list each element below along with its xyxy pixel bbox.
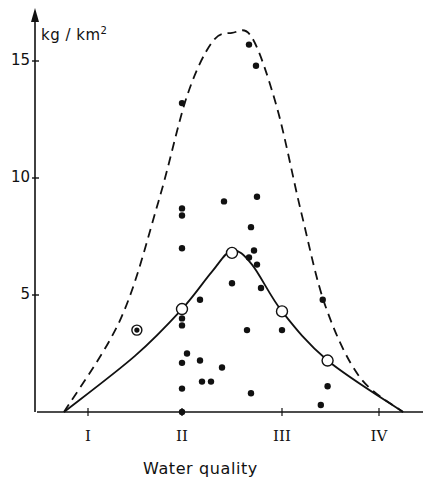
x-axis-label: Water quality <box>143 459 258 478</box>
data-point <box>251 247 257 253</box>
data-point <box>279 327 285 333</box>
data-point <box>318 402 324 408</box>
y-tick-15: 15 <box>4 51 30 69</box>
data-point <box>248 224 254 230</box>
mean-point <box>177 304 188 315</box>
data-point <box>197 296 203 302</box>
data-point <box>208 378 214 384</box>
mean-point <box>227 247 238 258</box>
data-point <box>248 390 254 396</box>
data-point <box>179 245 185 251</box>
data-point <box>254 194 260 200</box>
y-tick-10: 10 <box>4 168 30 186</box>
ringed-point-inner <box>134 328 139 333</box>
x-tick-i: I <box>68 427 108 445</box>
data-point <box>179 205 185 211</box>
data-point <box>184 350 190 356</box>
data-point <box>324 383 330 389</box>
data-point <box>179 409 185 415</box>
data-point <box>320 296 326 302</box>
y-tick-5: 5 <box>4 285 30 303</box>
data-point <box>179 360 185 366</box>
x-tick-iii: III <box>262 427 302 445</box>
x-tick-iv: IV <box>359 427 399 445</box>
y-axis-label: kg / km2 <box>41 25 107 44</box>
data-point <box>221 198 227 204</box>
data-point <box>246 254 252 260</box>
data-point <box>254 261 260 267</box>
data-point <box>219 364 225 370</box>
data-point <box>179 322 185 328</box>
data-point <box>179 212 185 218</box>
data-point <box>229 280 235 286</box>
data-point <box>253 62 259 68</box>
x-tick-ii: II <box>162 427 202 445</box>
mean-point <box>277 306 288 317</box>
data-point <box>197 357 203 363</box>
mean-point <box>322 355 333 366</box>
chart-canvas <box>0 0 427 488</box>
data-point <box>258 285 264 291</box>
upper-envelope-curve <box>64 30 403 412</box>
y-axis-arrow-icon <box>31 8 39 22</box>
data-point <box>179 315 185 321</box>
data-point <box>179 385 185 391</box>
data-point <box>179 100 185 106</box>
data-point <box>246 41 252 47</box>
data-point <box>244 327 250 333</box>
data-point <box>199 378 205 384</box>
